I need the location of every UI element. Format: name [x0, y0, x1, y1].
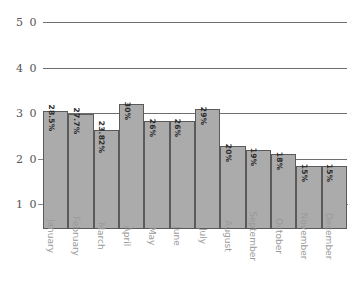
- x-axis-label-slot: December: [322, 232, 347, 298]
- x-axis-category-label: November: [299, 213, 309, 260]
- x-axis-label-slot: July: [195, 232, 220, 298]
- bar-value-label: 19%: [249, 147, 258, 166]
- bar-value-label: 26%: [148, 119, 157, 138]
- x-axis-category-label: March: [96, 222, 106, 249]
- bar-value-label: 18%: [275, 152, 284, 171]
- x-axis-category-label: June: [172, 226, 182, 246]
- bar-chart: 5 0 4 0 3 0 2 0 1 0 28.5%27.7%23.82%30%2…: [0, 0, 363, 298]
- bar-value-label: 27.7%: [72, 107, 81, 134]
- bar-value-label: 15%: [300, 164, 309, 183]
- bar[interactable]: 26%: [170, 121, 195, 228]
- bar[interactable]: 30%: [119, 104, 144, 228]
- x-axis-label-slot: August: [220, 232, 245, 298]
- x-axis-label-slot: November: [296, 232, 321, 298]
- bar[interactable]: 29%: [195, 109, 220, 228]
- x-axis-label-slot: February: [68, 232, 93, 298]
- bar-value-label: 23.82%: [97, 121, 106, 153]
- bar[interactable]: 27.7%: [68, 114, 93, 228]
- bar-value-label: 29%: [199, 106, 208, 125]
- x-axis-category-label: May: [147, 227, 157, 246]
- y-tick-label-30: 3 0: [16, 108, 38, 119]
- bar-value-label: 26%: [173, 119, 182, 138]
- x-axis-label-slot: May: [144, 232, 169, 298]
- bar[interactable]: 18%: [271, 154, 296, 228]
- x-axis-category-label: December: [324, 213, 334, 260]
- x-axis-label-slot: January: [43, 232, 68, 298]
- x-axis-label-slot: October: [271, 232, 296, 298]
- x-axis-label-slot: March: [94, 232, 119, 298]
- x-axis-label-slot: April: [119, 232, 144, 298]
- bar-value-label: 28.5%: [47, 104, 56, 131]
- x-axis-category-label: April: [122, 226, 132, 247]
- plot-area: 28.5%27.7%23.82%30%26%26%29%20%19%18%15%…: [43, 22, 347, 228]
- y-tick-label-50: 5 0: [16, 17, 38, 28]
- bar[interactable]: 23.82%: [94, 130, 119, 228]
- x-axis-category-label: August: [223, 220, 233, 252]
- bar-value-label: 30%: [123, 102, 132, 121]
- x-axis-label-slot: September: [246, 232, 271, 298]
- x-axis-labels: JanuaryFebruaryMarchAprilMayJuneJulyAugu…: [43, 232, 347, 298]
- x-axis-category-label: July: [198, 228, 208, 244]
- y-tick-label-20: 2 0: [16, 153, 38, 164]
- x-axis-category-label: September: [248, 211, 258, 261]
- y-axis-labels: 5 0 4 0 3 0 2 0 1 0: [0, 0, 38, 298]
- x-axis-category-label: January: [46, 219, 56, 253]
- y-tick-label-40: 4 0: [16, 62, 38, 73]
- x-axis-category-label: October: [274, 218, 284, 254]
- x-axis-label-slot: June: [170, 232, 195, 298]
- y-tick-label-10: 1 0: [16, 199, 38, 210]
- bar[interactable]: 20%: [220, 146, 245, 228]
- bar-value-label: 15%: [325, 164, 334, 183]
- bar[interactable]: 26%: [144, 121, 169, 228]
- bar-value-label: 20%: [224, 143, 233, 162]
- x-axis-category-label: February: [71, 216, 81, 256]
- bar[interactable]: 28.5%: [43, 111, 68, 228]
